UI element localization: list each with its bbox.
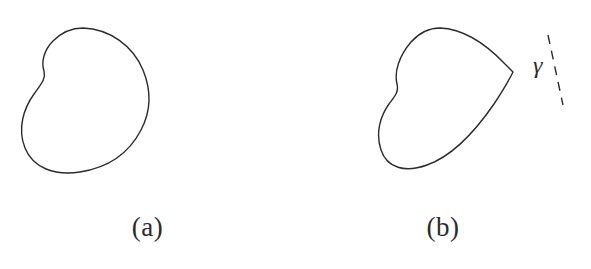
shape-a-outline-path xyxy=(22,28,149,173)
figure-panel-a: (a) xyxy=(0,0,295,269)
panel-a-caption: (a) xyxy=(0,214,295,241)
figure-panel-b: γ (b) xyxy=(295,0,591,269)
shape-b-outline-path xyxy=(379,28,513,169)
gamma-dashed-line-path xyxy=(548,35,563,105)
figure-container: (a) γ (b) xyxy=(0,0,591,269)
panel-b-caption: (b) xyxy=(295,214,591,241)
gamma-annotation-label: γ xyxy=(533,52,542,79)
